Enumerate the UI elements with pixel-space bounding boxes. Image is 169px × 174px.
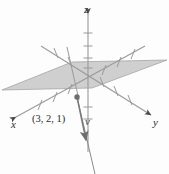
vector-label: v <box>85 115 90 127</box>
y-axis-label: y <box>152 116 158 128</box>
y-axis-tick <box>114 86 118 96</box>
diagram-canvas: x y z (3, 2, 1) v <box>0 0 169 174</box>
vector-diagram-figure: x y z (3, 2, 1) v <box>0 0 169 174</box>
x-axis-tick <box>53 92 57 102</box>
x-axis-label: x <box>10 118 16 130</box>
vector-v <box>74 94 95 174</box>
point-marker-dot <box>74 94 79 99</box>
y-axis-tick <box>54 48 58 58</box>
point-coordinate-label: (3, 2, 1) <box>32 113 66 125</box>
z-axis-label: z <box>83 3 89 15</box>
y-axis-tick <box>128 95 132 105</box>
shaded-plane <box>2 60 167 90</box>
